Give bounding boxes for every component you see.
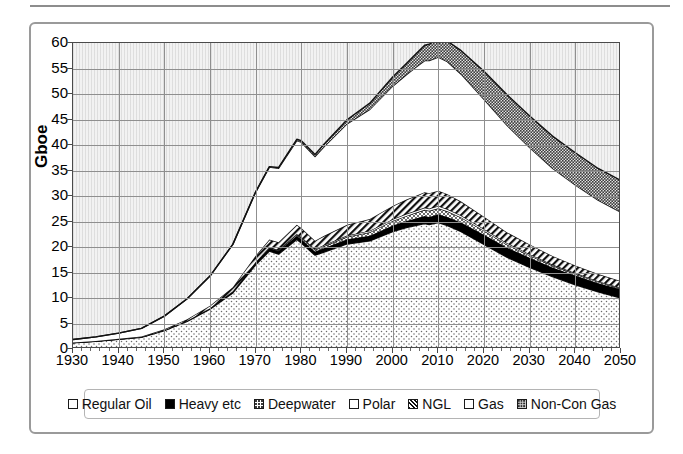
gridline-horizontal: [73, 298, 619, 299]
x-tick-minor: [182, 348, 183, 351]
x-tick-minor: [520, 348, 521, 351]
gridline-vertical: [164, 43, 165, 347]
legend-item-deepwater[interactable]: Deepwater: [254, 396, 336, 412]
x-tick-minor: [145, 348, 146, 351]
x-tick-label: 2010: [412, 352, 462, 368]
x-tick-minor: [583, 348, 584, 351]
x-tick-minor: [282, 348, 283, 351]
gridline-vertical: [119, 43, 120, 347]
y-tick-label: 10: [34, 289, 68, 304]
x-tick-minor: [218, 348, 219, 351]
y-tick-label: 25: [34, 213, 68, 228]
y-tick-label: 45: [34, 111, 68, 126]
x-tick-minor: [127, 348, 128, 351]
x-tick-mark: [346, 348, 347, 353]
x-tick-label: 1980: [275, 352, 325, 368]
x-tick-minor: [538, 348, 539, 351]
x-tick-label: 1990: [321, 352, 371, 368]
x-tick-minor: [446, 348, 447, 351]
x-tick-label: 2050: [595, 352, 645, 368]
y-tick-mark: [66, 195, 72, 196]
x-tick-minor: [355, 348, 356, 351]
x-tick-minor: [492, 348, 493, 351]
x-tick-minor: [565, 348, 566, 351]
y-tick-mark: [66, 42, 72, 43]
legend-item-polar[interactable]: Polar: [349, 396, 396, 412]
legend-label: Non-Con Gas: [531, 396, 617, 412]
stacked-area-chart: Gboe 605550454035302520151050: [0, 0, 683, 454]
gridline-vertical: [438, 43, 439, 347]
x-tick-minor: [364, 348, 365, 351]
legend-item-heavy-etc[interactable]: Heavy etc: [165, 396, 241, 412]
y-tick-label: 15: [34, 264, 68, 279]
legend-item-ngl[interactable]: NGL: [408, 396, 451, 412]
y-tick-mark: [66, 297, 72, 298]
y-tick-mark: [66, 170, 72, 171]
legend-label: Heavy etc: [179, 396, 241, 412]
gridline-horizontal: [73, 222, 619, 223]
y-tick-mark: [66, 68, 72, 69]
legend-swatch-icon: [165, 399, 175, 409]
x-tick-label: 1970: [230, 352, 280, 368]
x-tick-mark: [72, 348, 73, 353]
gridline-vertical: [256, 43, 257, 347]
x-tick-minor: [264, 348, 265, 351]
x-tick-minor: [510, 348, 511, 351]
x-tick-minor: [154, 348, 155, 351]
plot-area: [72, 42, 620, 348]
legend-label: NGL: [422, 396, 451, 412]
x-tick-minor: [328, 348, 329, 351]
x-tick-minor: [337, 348, 338, 351]
x-tick-minor: [547, 348, 548, 351]
x-tick-minor: [401, 348, 402, 351]
x-tick-label: 1950: [138, 352, 188, 368]
y-tick-label: 40: [34, 136, 68, 151]
x-tick-mark: [529, 348, 530, 353]
legend-item-gas[interactable]: Gas: [464, 396, 504, 412]
x-tick-minor: [90, 348, 91, 351]
y-tick-label: 55: [34, 60, 68, 75]
legend-label: Regular Oil: [82, 396, 152, 412]
y-tick-mark: [66, 246, 72, 247]
x-tick-mark: [118, 348, 119, 353]
y-tick-mark: [66, 348, 72, 349]
x-tick-minor: [291, 348, 292, 351]
legend-swatch-icon: [349, 399, 359, 409]
chart-legend: Regular OilHeavy etcDeepwaterPolarNGLGas…: [84, 389, 600, 419]
x-tick-minor: [419, 348, 420, 351]
gridline-vertical: [530, 43, 531, 347]
x-tick-label: 1960: [184, 352, 234, 368]
gridline-horizontal: [73, 171, 619, 172]
gridline-vertical: [484, 43, 485, 347]
x-tick-minor: [611, 348, 612, 351]
legend-item-non-con-gas[interactable]: Non-Con Gas: [517, 396, 617, 412]
x-tick-minor: [602, 348, 603, 351]
gridline-horizontal: [73, 273, 619, 274]
gridline-vertical: [301, 43, 302, 347]
gridline-vertical: [210, 43, 211, 347]
x-tick-minor: [373, 348, 374, 351]
x-tick-minor: [456, 348, 457, 351]
x-tick-minor: [246, 348, 247, 351]
legend-item-regular-oil[interactable]: Regular Oil: [68, 396, 152, 412]
y-tick-mark: [66, 93, 72, 94]
x-tick-mark: [300, 348, 301, 353]
x-tick-label: 2020: [458, 352, 508, 368]
x-tick-mark: [483, 348, 484, 353]
y-tick-mark: [66, 221, 72, 222]
y-axis-ticks: 605550454035302520151050: [30, 0, 68, 454]
x-tick-minor: [309, 348, 310, 351]
x-tick-minor: [109, 348, 110, 351]
gridline-horizontal: [73, 94, 619, 95]
x-tick-mark: [392, 348, 393, 353]
x-tick-minor: [410, 348, 411, 351]
y-tick-label: 50: [34, 85, 68, 100]
y-tick-mark: [66, 144, 72, 145]
x-tick-label: 2000: [367, 352, 417, 368]
x-tick-mark: [255, 348, 256, 353]
x-tick-minor: [383, 348, 384, 351]
x-tick-minor: [593, 348, 594, 351]
x-tick-minor: [236, 348, 237, 351]
legend-label: Polar: [363, 396, 396, 412]
x-tick-minor: [428, 348, 429, 351]
